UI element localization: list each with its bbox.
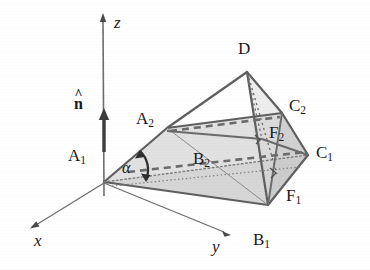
n-hat-glyph: ^n <box>74 96 83 112</box>
vertex-label-F2: F2 <box>269 124 284 143</box>
y-axis-arrowhead <box>222 231 231 237</box>
vertex-B1-sub: 1 <box>264 238 270 251</box>
vertex-A1-sub: 1 <box>80 154 86 167</box>
vertex-label-F1: F1 <box>286 187 301 206</box>
vertex-label-A2: A2 <box>136 110 154 129</box>
normal-vector-arrow <box>99 108 109 152</box>
normal-vector-label: ^n <box>74 96 83 112</box>
vertex-C1-base: C <box>316 143 327 162</box>
geometry-figure: x y z ^n α A1 A2 B1 B2 C1 C2 D F1 F2 <box>0 0 370 270</box>
vertex-C2-sub: 2 <box>300 104 306 117</box>
vertex-C2-base: C <box>289 96 300 115</box>
vertex-A1-base: A <box>68 146 80 165</box>
vertex-label-A1: A1 <box>68 147 86 166</box>
axis-label-z: z <box>114 14 121 31</box>
z-axis-line <box>103 20 104 196</box>
figure-drawing <box>0 0 370 270</box>
vertex-C1-sub: 1 <box>327 151 333 164</box>
vertex-label-D: D <box>238 40 250 59</box>
vertex-label-C1: C1 <box>316 144 333 163</box>
vertex-F2-sub: 2 <box>278 131 284 144</box>
x-axis-line <box>36 183 104 225</box>
hat-accent: ^ <box>75 88 83 102</box>
vertex-D-base: D <box>238 39 250 58</box>
vertex-B1-base: B <box>253 230 264 249</box>
axis-label-y: y <box>212 238 220 255</box>
z-axis-arrowhead <box>100 13 106 22</box>
normal-vector-head <box>99 108 109 120</box>
alpha-angle-label: α <box>122 160 130 176</box>
x-axis-arrowhead <box>30 221 40 228</box>
axis-label-x: x <box>34 232 42 249</box>
vertex-label-B1: B1 <box>253 231 270 250</box>
vertex-A2-sub: 2 <box>148 117 154 130</box>
vertex-label-C2: C2 <box>289 97 306 116</box>
vertex-label-B2: B2 <box>193 150 210 169</box>
vertex-F1-sub: 1 <box>295 194 301 207</box>
vertex-B2-base: B <box>193 149 204 168</box>
vertex-B2-sub: 2 <box>204 157 210 170</box>
vertex-A2-base: A <box>136 109 148 128</box>
